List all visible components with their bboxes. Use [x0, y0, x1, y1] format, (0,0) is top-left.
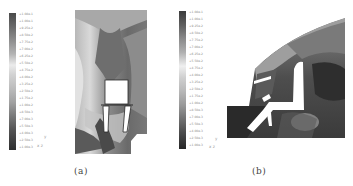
legend-label: +6.25e-2: [189, 53, 203, 56]
legend-label: +9.25e-2: [19, 27, 33, 30]
legend-label: +8.50e-3: [189, 109, 203, 112]
legend-label: +2.50e-2: [19, 90, 33, 93]
axis-triad-y: y: [44, 134, 46, 139]
stress-contour-plot-b: [227, 14, 349, 140]
legend-label: +4.00e-2: [19, 76, 33, 79]
legend-label: +4.75e-2: [189, 67, 203, 70]
legend-label: +8.50e-2: [19, 34, 33, 37]
axis-triad-xz: x z: [209, 144, 215, 149]
legend-label: +3.25e-2: [189, 81, 203, 84]
axis-triad-y: y: [215, 136, 217, 141]
legend-label: +7.00e-2: [189, 46, 203, 49]
legend-label: +4.00e-3: [19, 132, 33, 135]
legend-label: +7.00e-3: [189, 116, 203, 119]
legend-label: +7.00e-3: [19, 118, 33, 121]
legend-label: +1.75e-2: [189, 95, 203, 98]
panel-a: +1.08e-1 +1.00e-1 +9.25e-2 +8.50e-2 +7.7…: [0, 0, 170, 186]
axis-triad-xz: x z: [37, 143, 43, 148]
legend-label: +1.00e-1: [189, 18, 203, 21]
legend-label: +8.50e-2: [189, 32, 203, 35]
legend-colorbar-a: [9, 13, 16, 150]
figure-caption-b: (b): [252, 166, 266, 176]
legend-label: +1.00e-2: [189, 102, 203, 105]
legend-label: +1.08e-1: [189, 11, 203, 14]
legend-label: +2.50e-3: [189, 137, 203, 140]
legend-label: +5.50e-3: [189, 123, 203, 126]
legend-label: +7.00e-2: [19, 48, 33, 51]
figure-caption-a: (a): [74, 166, 88, 176]
panel-b: +1.08e-1 +1.00e-1 +9.25e-2 +8.50e-2 +7.7…: [170, 0, 353, 186]
legend-label: +5.50e-3: [19, 125, 33, 128]
legend-label: +4.75e-2: [19, 69, 33, 72]
legend-label: +1.00e-3: [189, 144, 203, 147]
legend-label: +7.75e-2: [19, 41, 33, 44]
legend-label: +1.08e-1: [19, 13, 33, 16]
legend-label: +4.00e-2: [189, 74, 203, 77]
color-legend-a: +1.08e-1 +1.00e-1 +9.25e-2 +8.50e-2 +7.7…: [9, 13, 54, 151]
legend-label: +6.25e-2: [19, 55, 33, 58]
legend-colorbar-b: [179, 11, 186, 149]
legend-label: +2.50e-3: [19, 139, 33, 142]
legend-label: +1.00e-1: [19, 20, 33, 23]
legend-label: +1.75e-2: [19, 97, 33, 100]
legend-label: +1.00e-2: [19, 104, 33, 107]
legend-label: +3.25e-2: [19, 83, 33, 86]
legend-label: +1.00e-3: [19, 146, 33, 149]
legend-label: +4.00e-3: [189, 130, 203, 133]
legend-label: +7.75e-2: [189, 39, 203, 42]
legend-label: +9.25e-2: [189, 25, 203, 28]
legend-label: +5.50e-2: [19, 62, 33, 65]
color-legend-b: +1.08e-1 +1.00e-1 +9.25e-2 +8.50e-2 +7.7…: [179, 11, 224, 151]
legend-label: +5.50e-2: [189, 60, 203, 63]
legend-label: +8.50e-3: [19, 111, 33, 114]
stress-contour-plot-a: [75, 8, 150, 156]
legend-label: +2.50e-2: [189, 88, 203, 91]
